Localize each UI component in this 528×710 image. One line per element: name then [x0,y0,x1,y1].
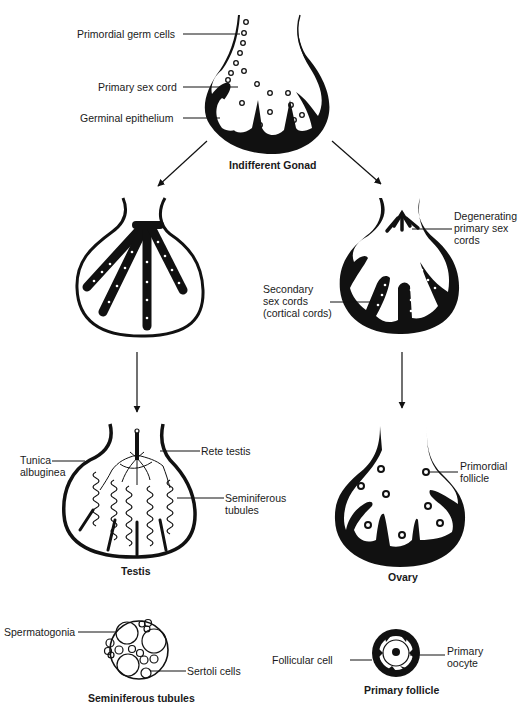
title-primary-follicle: Primary follicle [364,684,439,696]
label-seminiferous-1: Seminiferous [225,492,286,504]
label-degenerating-3: cords [454,234,480,246]
label-degenerating-2: primary sex [454,222,508,234]
label-primordial-follicle-1: Primordial [460,460,507,472]
label-spermatogonia: Spermatogonia [4,626,75,638]
female-intermediate-gonad [330,198,459,408]
title-indifferent-gonad: Indifferent Gonad [229,159,317,171]
seminiferous-tubule-cross-section [78,620,186,680]
label-sertoli-cells: Sertoli cells [187,665,241,677]
label-degenerating-1: Degenerating [454,210,517,222]
title-testis: Testis [121,565,151,577]
label-secondary-2: sex cords [263,295,308,307]
gonad-development-diagram [0,0,528,710]
label-follicular-cell: Follicular cell [272,654,333,666]
indifferent-gonad-epithelium [205,15,330,154]
arrow-to-female [332,141,381,184]
primordial-germ-cells-icon [226,20,305,128]
label-germinal-epithelium: Germinal epithelium [80,112,173,124]
label-secondary-3: (cortical cords) [263,307,332,319]
label-rete-testis: Rete testis [201,445,251,457]
label-primary-oocyte-2: oocyte [447,657,478,669]
ovary-diagram [335,426,465,567]
label-primary-sex-cord: Primary sex cord [98,81,177,93]
title-seminiferous-tubules: Seminiferous tubules [88,692,195,704]
indifferent-gonad [183,15,329,154]
label-primordial-follicle-2: follicle [460,472,489,484]
label-tunica-2: albuginea [20,466,66,478]
label-seminiferous-2: tubules [225,504,259,516]
testis-diagram [52,424,224,557]
label-secondary-1: Secondary [263,283,313,295]
primary-follicle-cross-section [350,629,445,677]
arrow-to-male [158,141,207,186]
label-tunica-1: Tunica [20,454,51,466]
label-primordial-germ-cells: Primordial germ cells [77,28,175,40]
label-primary-oocyte-1: Primary [447,645,483,657]
male-intermediate-gonad [77,198,203,412]
title-ovary: Ovary [388,571,418,583]
